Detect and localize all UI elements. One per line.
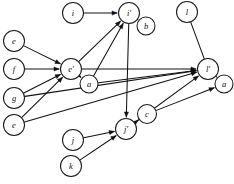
graph-node-k[interactable]: k [61,156,82,177]
graph-edge [80,136,116,160]
graph-node-a_right[interactable]: a [215,75,233,93]
graph-edge [84,11,117,15]
graph-node-b[interactable]: b [137,17,155,35]
graph-node-f[interactable]: f [4,59,25,80]
node-circle[interactable] [137,17,155,35]
arrowhead [193,76,198,81]
graph-node-a_left[interactable]: a [80,75,98,93]
node-circle[interactable] [61,59,82,80]
arrowhead [55,60,60,64]
graph-node-e_p[interactable]: e′ [61,59,82,80]
arrowhead [55,74,60,78]
node-circle[interactable] [4,115,25,136]
graph-edge [98,69,196,83]
node-circle[interactable] [215,75,233,93]
node-circle[interactable] [177,2,198,23]
graph-node-l[interactable]: l [177,2,198,23]
node-circle[interactable] [138,105,157,124]
graph-edge [24,46,60,64]
node-layer: ii′blefe′al′agecj′jk [4,2,234,177]
graph-node-i_p[interactable]: i′ [119,3,140,24]
graph-edge [24,74,61,93]
arrowhead [124,112,128,117]
graph-node-g[interactable]: g [4,88,25,109]
arrowhead [112,11,117,15]
arrowhead [109,130,114,134]
arrowhead [111,136,116,141]
node-circle[interactable] [63,130,84,151]
node-circle[interactable] [116,119,137,140]
node-circle[interactable] [80,75,98,93]
arrowhead [54,67,59,71]
node-circle[interactable] [119,3,140,24]
graph-node-e_bot[interactable]: e [4,115,25,136]
graph-edge [191,22,204,58]
node-circle[interactable] [63,3,84,24]
graph-edge [79,21,120,61]
node-circle[interactable] [4,59,25,80]
graph-node-l_p[interactable]: l′ [198,59,219,80]
graph-edge [84,130,114,137]
node-circle[interactable] [4,31,25,52]
node-circle[interactable] [198,59,219,80]
graph-canvas: ii′blefe′al′agecj′jk [0,0,234,184]
graph-node-e_top[interactable]: e [4,31,25,52]
node-circle[interactable] [61,156,82,177]
arrowhead [209,88,214,92]
graph-edge [124,24,128,117]
arrowhead [191,72,196,76]
graph-node-j_p[interactable]: j′ [116,119,137,140]
graph-edge [94,23,123,75]
graph-edge [82,67,196,71]
graph-edge [156,88,214,111]
graph-node-i[interactable]: i [63,3,84,24]
node-circle[interactable] [4,88,25,109]
arrowhead [119,23,123,28]
graph-node-c[interactable]: c [138,105,157,124]
graph-node-j[interactable]: j [63,130,84,151]
graph-edge [25,67,59,71]
graph-figure: ii′blefe′al′agecj′jk [0,0,234,184]
